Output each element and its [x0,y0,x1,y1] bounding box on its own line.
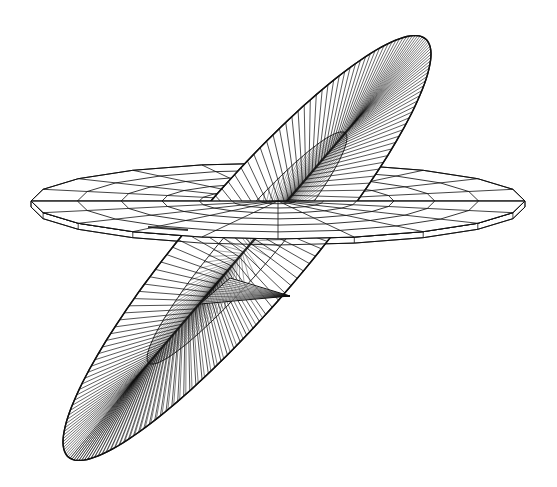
tilted-ellipse-surface [63,36,431,461]
wireframe-figure: Wireframe rendering of a tilted elliptic… [0,0,557,487]
wireframe-canvas [0,0,557,487]
